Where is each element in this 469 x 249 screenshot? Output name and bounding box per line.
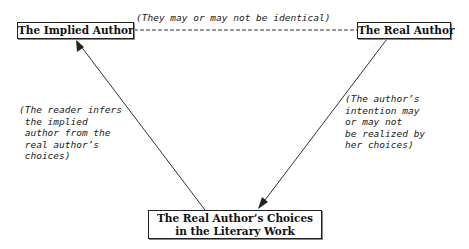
infer-arrowhead-icon (76, 40, 84, 52)
choices-label-line2: in the Literary Work (149, 225, 321, 238)
identity-annotation: (They may or may not be identical) (136, 12, 330, 24)
intention-annotation: (The author’s intention may or may not b… (345, 93, 425, 151)
implied-author-node: The Implied Author (17, 22, 134, 39)
choices-node: The Real Author’s Choices in the Literar… (148, 210, 322, 239)
implied-author-label: The Implied Author (18, 24, 134, 36)
choices-label-line1: The Real Author’s Choices (149, 212, 321, 225)
real-author-label: The Real Author (358, 24, 454, 36)
real-author-node: The Real Author (357, 22, 451, 39)
inference-annotation: (The reader infers the implied author fr… (19, 104, 122, 162)
